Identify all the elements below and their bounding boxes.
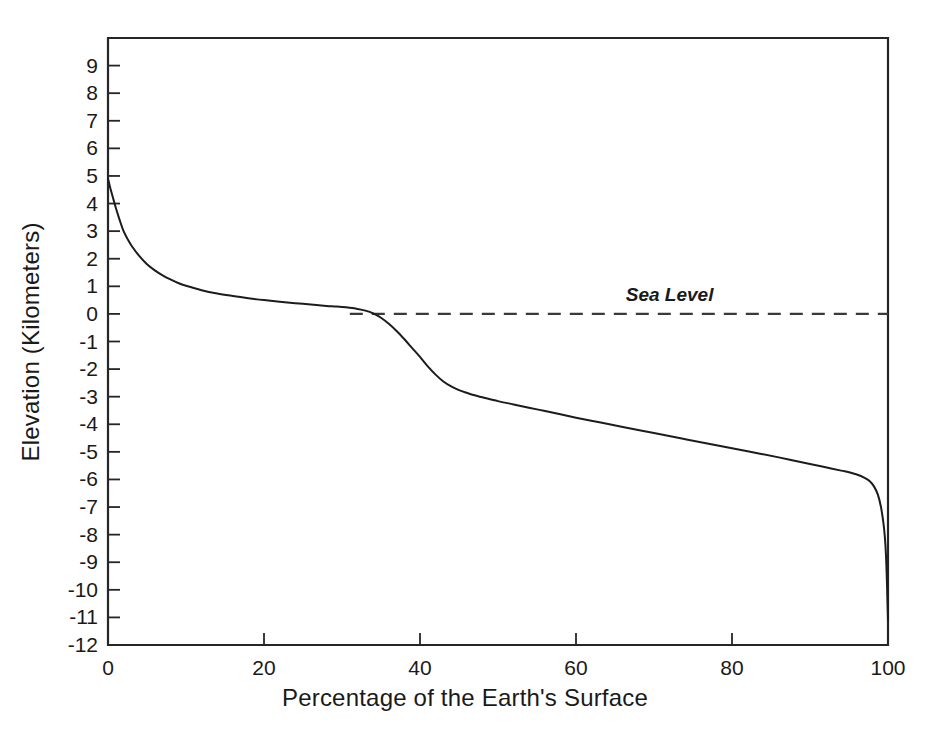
y-tick-label: -1	[79, 330, 98, 353]
x-tick-label: 60	[564, 656, 587, 679]
y-tick-label: 5	[86, 164, 98, 187]
y-tick-label: 4	[86, 192, 98, 215]
y-tick-label: -9	[79, 550, 98, 573]
x-tick-label: 100	[870, 656, 905, 679]
y-tick-label: -3	[79, 385, 98, 408]
caption-fragment	[0, 736, 930, 749]
y-tick-label: 6	[86, 136, 98, 159]
x-axis-tick-labels: 020406080100	[102, 656, 905, 679]
y-tick-label: -2	[79, 357, 98, 380]
x-tick-label: 0	[102, 656, 114, 679]
sea-level-annotation: Sea Level	[626, 284, 714, 305]
y-tick-label: -12	[68, 633, 98, 656]
y-tick-label: -10	[68, 578, 98, 601]
y-tick-label: -4	[79, 412, 98, 435]
y-tick-label: 0	[86, 302, 98, 325]
sea-level-text: Sea Level	[626, 284, 714, 305]
data-series-line	[108, 179, 888, 620]
axis-frame	[108, 38, 888, 645]
y-tick-label: 3	[86, 219, 98, 242]
hypsometric-curve-figure: 9876543210-1-2-3-4-5-6-7-8-9-10-11-12 02…	[0, 0, 930, 749]
y-axis-title-wrap: Elevation (Kilometers)	[8, 0, 54, 684]
y-tick-label: 7	[86, 109, 98, 132]
y-tick-label: 9	[86, 54, 98, 77]
y-tick-label: -5	[79, 440, 98, 463]
plot-border	[108, 38, 888, 645]
tick-marks	[108, 66, 732, 645]
y-tick-label: 2	[86, 247, 98, 270]
x-tick-label: 20	[252, 656, 275, 679]
chart-canvas: 9876543210-1-2-3-4-5-6-7-8-9-10-11-12 02…	[0, 0, 930, 749]
y-tick-label: 8	[86, 81, 98, 104]
hypsometric-curve-line	[108, 179, 888, 620]
y-axis-tick-labels: 9876543210-1-2-3-4-5-6-7-8-9-10-11-12	[68, 54, 99, 656]
y-tick-label: 1	[86, 274, 98, 297]
x-tick-label: 40	[408, 656, 431, 679]
y-tick-label: -6	[79, 467, 98, 490]
x-tick-label: 80	[720, 656, 743, 679]
y-tick-label: -8	[79, 523, 98, 546]
y-tick-label: -11	[69, 605, 98, 628]
y-axis-title: Elevation (Kilometers)	[17, 222, 45, 461]
y-tick-label: -7	[79, 495, 98, 518]
x-axis-title: Percentage of the Earth's Surface	[0, 684, 930, 712]
